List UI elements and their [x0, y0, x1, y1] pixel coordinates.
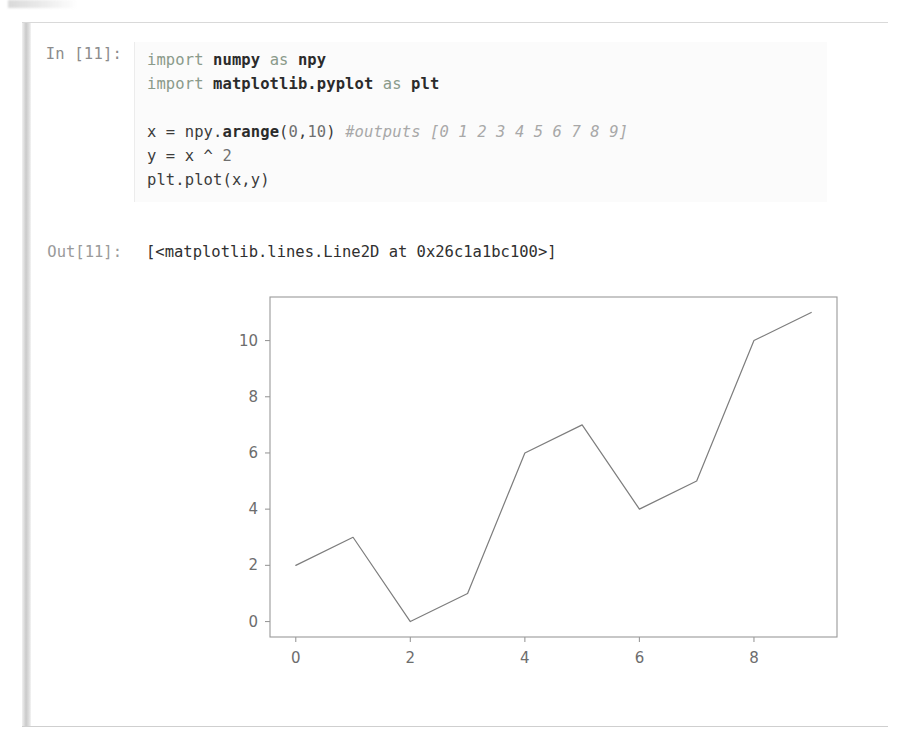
- code-token-plain: ,: [298, 123, 307, 141]
- code-token-kw: as: [373, 75, 411, 93]
- cell-top-divider: [22, 22, 888, 23]
- code-token-num: 2: [222, 147, 231, 165]
- y-axis-tick-label: 4: [248, 500, 258, 518]
- code-editor[interactable]: import numpy as npyimport matplotlib.pyp…: [134, 42, 827, 202]
- x-axis-tick-label: 4: [520, 649, 530, 667]
- code-token-mod: numpy: [213, 51, 260, 69]
- code-line[interactable]: y = x ^ 2: [147, 144, 827, 168]
- x-axis-tick-label: 8: [749, 649, 759, 667]
- code-token-kw: as: [260, 51, 298, 69]
- scan-artifact: [8, 0, 78, 8]
- code-line[interactable]: import numpy as npy: [147, 48, 827, 72]
- code-token-plain: ): [326, 123, 345, 141]
- code-token-comment: #outputs [0 1 2 3 4 5 6 7 8 9]: [345, 123, 628, 141]
- code-line[interactable]: import matplotlib.pyplot as plt: [147, 72, 827, 96]
- code-token-num: 10: [307, 123, 326, 141]
- output-prompt-label: Out[11]:: [22, 240, 134, 264]
- code-token-kw: import: [147, 75, 213, 93]
- code-token-plain: y = x ^: [147, 147, 222, 165]
- y-axis-tick-label: 6: [248, 444, 258, 462]
- matplotlib-figure-output: 024680246810: [195, 285, 855, 695]
- plot-frame: [270, 297, 837, 637]
- cell-bottom-divider: [22, 726, 888, 727]
- code-token-plain: (: [279, 123, 288, 141]
- code-line[interactable]: x = npy.arange(0,10) #outputs [0 1 2 3 4…: [147, 120, 827, 144]
- code-token-num: 0: [289, 123, 298, 141]
- code-cell-output-row: Out[11]: [<matplotlib.lines.Line2D at 0x…: [22, 240, 888, 264]
- x-axis-tick-label: 2: [406, 649, 416, 667]
- y-axis-tick-label: 2: [248, 556, 258, 574]
- code-cell-input-row[interactable]: In [11]: import numpy as npyimport matpl…: [22, 42, 888, 202]
- y-axis-tick-label: 10: [239, 332, 258, 350]
- code-token-mod: arange: [222, 123, 279, 141]
- input-prompt-label: In [11]:: [22, 42, 134, 66]
- data-series-line: [296, 312, 811, 621]
- output-text-result: [<matplotlib.lines.Line2D at 0x26c1a1bc1…: [134, 240, 557, 264]
- code-token-mod: matplotlib.pyplot: [213, 75, 373, 93]
- code-token-mod: plt: [411, 75, 439, 93]
- code-token-plain: x = npy.: [147, 123, 222, 141]
- x-axis-tick-label: 0: [291, 649, 301, 667]
- line-chart: 024680246810: [195, 285, 855, 695]
- code-line[interactable]: [147, 96, 827, 120]
- code-token-plain: plt.plot(x,y): [147, 171, 270, 189]
- code-line[interactable]: plt.plot(x,y): [147, 168, 827, 192]
- code-token-mod: npy: [298, 51, 326, 69]
- code-token-kw: import: [147, 51, 213, 69]
- y-axis-tick-label: 8: [248, 388, 258, 406]
- x-axis-tick-label: 6: [635, 649, 645, 667]
- y-axis-tick-label: 0: [248, 613, 258, 631]
